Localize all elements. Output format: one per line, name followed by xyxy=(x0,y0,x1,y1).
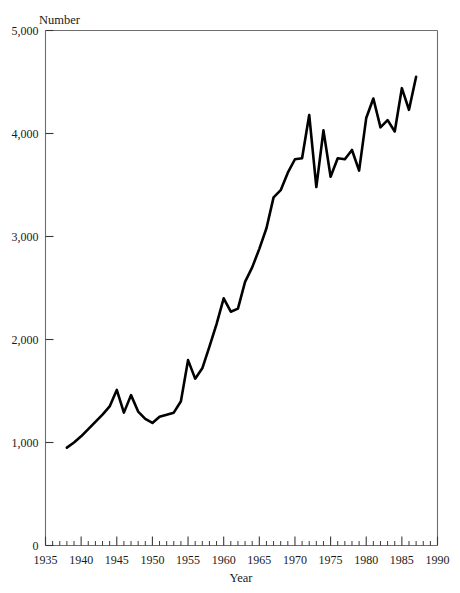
x-axis-ticks: 1935194019451950195519601965197019751980… xyxy=(34,537,450,567)
y-tick-label: 0 xyxy=(33,539,39,553)
x-tick-label: 1955 xyxy=(176,553,200,567)
data-series-line xyxy=(67,77,416,448)
y-axis-ticks: 01,0002,0003,0004,0005,000 xyxy=(12,24,54,553)
x-axis-title: Year xyxy=(229,571,253,585)
x-tick-label: 1965 xyxy=(247,553,271,567)
x-tick-label: 1950 xyxy=(140,553,164,567)
x-tick-label: 1970 xyxy=(283,553,307,567)
x-tick-label: 1960 xyxy=(212,553,236,567)
x-tick-label: 1975 xyxy=(319,553,343,567)
chart-figure: 01,0002,0003,0004,0005,000 1935194019451… xyxy=(0,0,460,593)
x-tick-label: 1985 xyxy=(390,553,414,567)
y-tick-label: 1,000 xyxy=(12,436,39,450)
x-tick-label: 1990 xyxy=(426,553,450,567)
line-chart: 01,0002,0003,0004,0005,000 1935194019451… xyxy=(0,0,460,593)
y-tick-label: 2,000 xyxy=(12,333,39,347)
x-tick-label: 1980 xyxy=(354,553,378,567)
x-tick-label: 1945 xyxy=(105,553,129,567)
x-tick-label: 1940 xyxy=(69,553,93,567)
plot-frame xyxy=(46,31,438,546)
y-axis-title: Number xyxy=(39,13,81,27)
y-tick-label: 3,000 xyxy=(12,230,39,244)
x-tick-label: 1935 xyxy=(34,553,58,567)
y-tick-label: 4,000 xyxy=(12,127,39,141)
y-tick-label: 5,000 xyxy=(12,24,39,38)
